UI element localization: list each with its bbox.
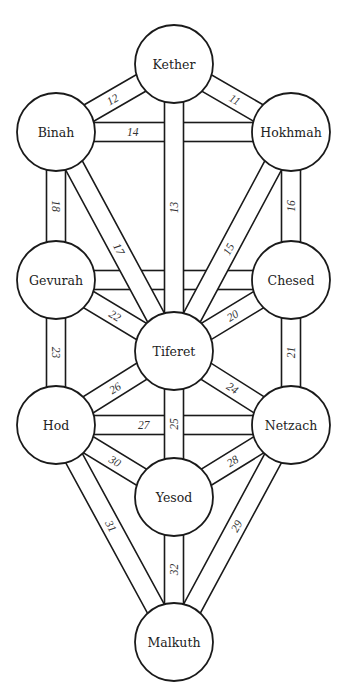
path-number-label: 25 — [168, 418, 180, 430]
tree-of-life-diagram: 1419271816232112112220262430281715312913… — [0, 0, 349, 698]
sephirah-malkuth: Malkuth — [135, 603, 213, 681]
path-number-label: 16 — [285, 200, 297, 212]
path-number-label: 32 — [168, 564, 180, 577]
path-13: 13 — [165, 87, 184, 327]
sephirah-tiferet: Tiferet — [135, 312, 213, 390]
sephirah-yesod: Yesod — [135, 458, 213, 536]
sephirah-netzach: Netzach — [252, 386, 330, 464]
path-number-label: 13 — [168, 202, 180, 214]
path-number-label: 18 — [50, 200, 62, 212]
path-number-label: 27 — [138, 419, 151, 431]
sephirah-gevurah: Gevurah — [17, 241, 95, 319]
sephirah-label: Kether — [153, 57, 196, 72]
sephirah-kether: Kether — [135, 25, 213, 103]
sephirah-label: Malkuth — [148, 635, 201, 650]
sephirah-label: Netzach — [265, 418, 317, 433]
sephirah-label: Chesed — [268, 273, 315, 288]
sephirah-hokhmah: Hokhmah — [252, 93, 330, 171]
sephirah-label: Binah — [38, 125, 75, 140]
sephirah-label: Tiferet — [153, 344, 196, 359]
sephirah-chesed: Chesed — [252, 241, 330, 319]
sephirah-label: Hokhmah — [260, 125, 321, 140]
path-number-label: 14 — [127, 126, 139, 138]
sephirah-label: Hod — [43, 418, 69, 433]
sephirah-label: Yesod — [155, 490, 193, 505]
path-number-label: 23 — [50, 347, 62, 359]
path-number-label: 21 — [285, 347, 297, 359]
sephirah-binah: Binah — [17, 93, 95, 171]
sephirah-hod: Hod — [17, 386, 95, 464]
tree-of-life-canvas: 1419271816232112112220262430281715312913… — [0, 0, 349, 698]
sephirah-label: Gevurah — [29, 273, 83, 288]
